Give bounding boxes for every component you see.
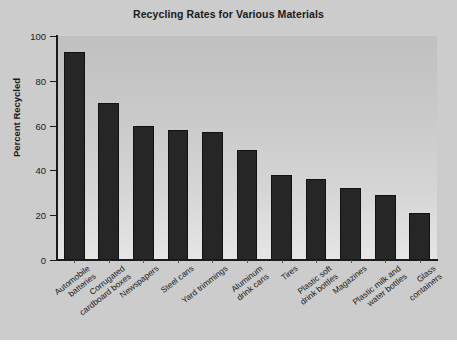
y-axis-line (56, 35, 58, 261)
x-axis-tick (247, 260, 248, 263)
bar (64, 52, 85, 260)
x-axis-tick (143, 260, 144, 263)
bar (168, 130, 189, 260)
y-axis-tick (50, 215, 57, 216)
figure-bottom-margin (0, 340, 457, 352)
x-axis-tick (74, 260, 75, 263)
y-axis-tick-label: 100 (16, 31, 46, 42)
bar (202, 132, 223, 260)
y-axis-tick-label: 0 (16, 255, 46, 266)
bar (98, 103, 119, 260)
x-axis-category-label: Tires (279, 264, 299, 283)
bar (409, 213, 430, 260)
y-axis-tick (50, 36, 57, 37)
x-axis-tick (316, 260, 317, 263)
x-axis-tick (282, 260, 283, 263)
y-axis-tick (50, 170, 57, 171)
x-axis-tick (385, 260, 386, 263)
y-axis-tick-label: 20 (16, 210, 46, 221)
y-axis-tick (50, 260, 57, 261)
x-axis-tick (420, 260, 421, 263)
bar (133, 126, 154, 260)
x-axis-tick (178, 260, 179, 263)
x-axis-category-label: Aluminumdrink cans (229, 264, 271, 302)
x-axis-category-label: Glasscontainers (401, 264, 443, 303)
chart-title: Recycling Rates for Various Materials (0, 8, 457, 20)
plot-area (57, 36, 437, 260)
y-axis-tick (50, 81, 57, 82)
chart-figure: Recycling Rates for Various Materials 02… (0, 0, 457, 340)
bar (237, 150, 258, 260)
bar (340, 188, 361, 260)
bar (306, 179, 327, 260)
y-axis-tick (50, 126, 57, 127)
y-axis-title: Percent Recycled (11, 48, 22, 188)
bar (375, 195, 396, 260)
x-axis-tick (351, 260, 352, 263)
x-axis-tick (212, 260, 213, 263)
bar (271, 175, 292, 260)
x-axis-tick (109, 260, 110, 263)
